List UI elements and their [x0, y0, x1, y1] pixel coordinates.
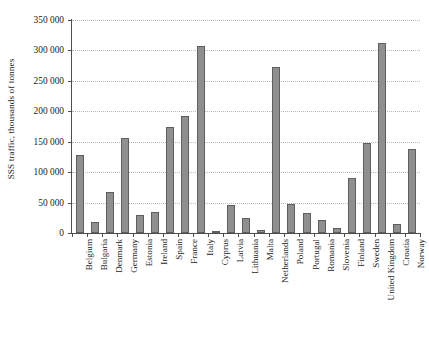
x-tick-mark [299, 233, 300, 237]
x-tick-mark [102, 233, 103, 237]
x-tick-mark [284, 233, 285, 237]
x-tick-label: Spain [163, 239, 178, 335]
x-tick-label: Denmark [102, 239, 117, 335]
bar [197, 46, 205, 233]
y-tick-label: 0 [59, 228, 64, 238]
x-tick-label: Italy [193, 239, 208, 335]
bar [166, 127, 174, 234]
bar [393, 224, 401, 233]
x-tick-mark [390, 233, 391, 237]
bar [287, 204, 295, 233]
y-tick-label: 250 000 [34, 76, 64, 86]
y-tick-label: 200 000 [34, 106, 64, 116]
y-tick-label: 100 000 [34, 167, 64, 177]
bar [227, 205, 235, 233]
x-tick-label: United Kingdom [375, 239, 390, 335]
x-tick-mark [87, 233, 88, 237]
x-tick-label: Netherlands [269, 239, 284, 335]
bar [136, 215, 144, 233]
x-tick-label: Germany [117, 239, 132, 335]
x-tick-label: Cyprus [208, 239, 223, 335]
bar [303, 213, 311, 233]
x-tick-mark [178, 233, 179, 237]
y-tick-label: 300 000 [34, 45, 64, 55]
x-tick-mark [344, 233, 345, 237]
bar [272, 67, 280, 233]
bar-series [72, 20, 420, 233]
y-tick-label: 50 000 [38, 198, 64, 208]
x-tick-mark [375, 233, 376, 237]
bar [151, 212, 159, 233]
x-tick-label: Croatia [390, 239, 405, 335]
x-tick-mark [193, 233, 194, 237]
x-tick-mark [405, 233, 406, 237]
bar [91, 222, 99, 233]
y-axis-ticks: 050 000100 000150 000200 000250 000300 0… [0, 0, 72, 338]
x-tick-label: Poland [284, 239, 299, 335]
bar [378, 43, 386, 233]
x-tick-mark [238, 233, 239, 237]
bar [106, 192, 114, 233]
x-tick-mark [117, 233, 118, 237]
x-tick-mark [223, 233, 224, 237]
x-tick-label: Lithuania [238, 239, 253, 335]
x-tick-mark [314, 233, 315, 237]
bar [318, 220, 326, 233]
y-tick-label: 350 000 [34, 15, 64, 25]
x-tick-label: Bulgaria [87, 239, 102, 335]
chart-figure: SSS traffic, thousands of tonnes 050 000… [0, 0, 429, 338]
x-tick-label: Belgium [72, 239, 87, 335]
bar [181, 116, 189, 233]
x-tick-mark [269, 233, 270, 237]
x-tick-label: Ireland [148, 239, 163, 335]
x-tick-label: Malta [254, 239, 269, 335]
x-tick-mark [163, 233, 164, 237]
x-tick-mark [359, 233, 360, 237]
x-axis-labels: BelgiumBulgariaDenmarkGermanyEstoniaIrel… [72, 239, 420, 338]
x-tick-mark [133, 233, 134, 237]
x-tick-mark [208, 233, 209, 237]
bar [408, 149, 416, 233]
x-tick-mark [148, 233, 149, 237]
x-tick-mark [329, 233, 330, 237]
x-tick-label: Sweden [359, 239, 374, 335]
x-tick-label-text: Norway [416, 239, 426, 268]
bar [121, 138, 129, 233]
x-tick-label: Norway [405, 239, 420, 335]
x-tick-label: Estonia [133, 239, 148, 335]
bar [76, 155, 84, 233]
x-tick-mark [72, 233, 73, 237]
y-tick-label: 150 000 [34, 137, 64, 147]
bar [348, 178, 356, 233]
x-tick-label: France [178, 239, 193, 335]
x-tick-label: Portugal [299, 239, 314, 335]
x-tick-label: Romania [314, 239, 329, 335]
bar [363, 143, 371, 233]
x-tick-mark [420, 233, 421, 237]
x-tick-mark [254, 233, 255, 237]
x-tick-label: Slovenia [329, 239, 344, 335]
bar [242, 218, 250, 233]
x-tick-label: Finland [344, 239, 359, 335]
x-tick-label: Latvia [223, 239, 238, 335]
x-axis-ticks [72, 233, 420, 238]
